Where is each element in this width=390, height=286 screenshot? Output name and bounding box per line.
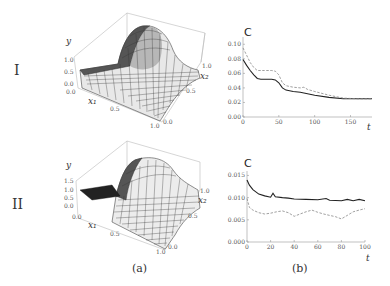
- svg-text:1.0: 1.0: [150, 122, 160, 129]
- svg-text:0.5: 0.5: [186, 87, 196, 94]
- svg-text:0: 0: [241, 118, 245, 125]
- surface-plot-I: y 1.0 0.5 0.0 0.0 x₁ 0.5 1.0 0.0 0.5 1.0…: [64, 13, 212, 129]
- svg-text:60: 60: [314, 243, 322, 250]
- x1-axis-label: x₁: [88, 220, 97, 230]
- x2-axis-label: x₂: [198, 195, 207, 205]
- svg-text:0: 0: [245, 243, 249, 250]
- svg-text:0.10: 0.10: [228, 40, 242, 47]
- svg-text:1.0: 1.0: [156, 248, 166, 255]
- svg-text:0.04: 0.04: [228, 84, 242, 91]
- svg-text:0.5: 0.5: [64, 194, 74, 201]
- svg-text:0.010: 0.010: [228, 194, 245, 201]
- series-dashed: [243, 48, 372, 99]
- y-axis-label: y: [65, 160, 72, 170]
- svg-text:0.00: 0.00: [228, 113, 242, 120]
- svg-text:0.06: 0.06: [228, 69, 242, 76]
- svg-text:0.5: 0.5: [110, 230, 120, 237]
- svg-text:0.02: 0.02: [228, 98, 242, 105]
- y-axis-label: C: [244, 26, 252, 39]
- svg-text:40: 40: [290, 243, 298, 250]
- svg-text:1.5: 1.5: [64, 177, 74, 184]
- x2-axis-label: x₂: [200, 71, 209, 81]
- y-axis-label: C: [244, 157, 252, 170]
- series-solid: [243, 60, 372, 99]
- svg-text:150: 150: [345, 118, 357, 125]
- row-label-I: I: [14, 62, 20, 78]
- figure: I II y 1.0 0.5: [0, 0, 390, 286]
- svg-text:0.5: 0.5: [64, 68, 74, 75]
- svg-text:1.0: 1.0: [200, 187, 210, 194]
- svg-text:20: 20: [267, 243, 275, 250]
- svg-text:0.5: 0.5: [188, 212, 198, 219]
- row-label-II: II: [12, 196, 23, 212]
- svg-text:0.0: 0.0: [168, 243, 178, 250]
- series-dashed: [247, 199, 365, 219]
- svg-text:0.000: 0.000: [228, 238, 245, 245]
- surface-plot-II: y 1.5 1.0 0.5 0.0 0.0 x₁ 0.5 1.0 0.0 0.5…: [64, 141, 210, 255]
- svg-text:100: 100: [309, 118, 321, 125]
- svg-text:0.015: 0.015: [228, 171, 245, 178]
- series-solid: [247, 180, 365, 201]
- line-chart-I: C t 0501001500.000.020.040.060.080.10: [228, 26, 372, 132]
- svg-text:100: 100: [359, 243, 371, 250]
- svg-text:0.08: 0.08: [228, 55, 242, 62]
- svg-text:80: 80: [338, 243, 346, 250]
- svg-text:1.0: 1.0: [202, 62, 212, 69]
- x1-axis-label: x₁: [88, 96, 97, 106]
- svg-text:0.005: 0.005: [228, 216, 245, 223]
- x-axis-label: t: [367, 122, 371, 132]
- svg-text:0.0: 0.0: [64, 202, 74, 209]
- svg-text:1.0: 1.0: [64, 56, 74, 63]
- y-axis-label: y: [65, 36, 72, 46]
- svg-text:1.0: 1.0: [64, 186, 74, 193]
- svg-text:0.0: 0.0: [72, 213, 82, 220]
- panel-label-a: (a): [132, 262, 147, 275]
- svg-text:0.0: 0.0: [64, 80, 74, 87]
- svg-text:0.0: 0.0: [163, 118, 173, 125]
- line-chart-II: C t 0204060801000.0000.0050.0100.015: [228, 157, 371, 263]
- svg-text:0.5: 0.5: [110, 105, 120, 112]
- x-axis-label: t: [366, 253, 370, 263]
- panel-label-b: (b): [292, 262, 308, 275]
- svg-text:0.0: 0.0: [66, 88, 76, 95]
- svg-text:50: 50: [275, 118, 283, 125]
